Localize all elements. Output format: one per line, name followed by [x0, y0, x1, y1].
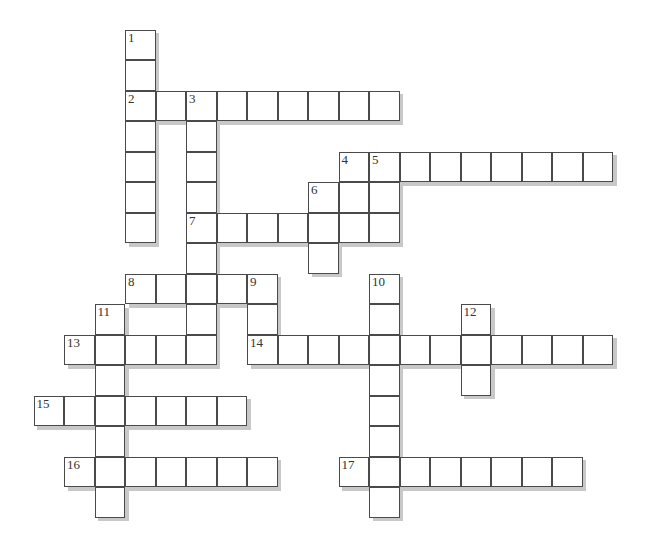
crossword-cell[interactable]	[522, 335, 553, 366]
crossword-cell[interactable]	[247, 213, 278, 244]
crossword-cell[interactable]	[95, 335, 126, 366]
crossword-cell[interactable]	[156, 396, 187, 427]
crossword-cell[interactable]	[156, 274, 187, 305]
crossword-cell[interactable]	[125, 60, 156, 91]
crossword-cell[interactable]	[186, 243, 217, 274]
crossword-cell[interactable]: 9	[247, 274, 278, 305]
crossword-cell[interactable]: 10	[369, 274, 400, 305]
crossword-cell[interactable]	[339, 213, 370, 244]
crossword-cell[interactable]	[125, 396, 156, 427]
crossword-cell[interactable]	[156, 91, 187, 122]
crossword-cell[interactable]	[278, 91, 309, 122]
crossword-cell[interactable]	[369, 396, 400, 427]
crossword-cell[interactable]	[217, 213, 248, 244]
crossword-cell[interactable]	[339, 182, 370, 213]
crossword-cell[interactable]	[369, 335, 400, 366]
crossword-cell[interactable]	[461, 457, 492, 488]
crossword-cell[interactable]	[491, 457, 522, 488]
crossword-cell[interactable]	[522, 457, 553, 488]
crossword-cell[interactable]	[217, 396, 248, 427]
crossword-cell[interactable]	[369, 213, 400, 244]
crossword-cell[interactable]	[186, 304, 217, 335]
crossword-cell[interactable]	[125, 121, 156, 152]
crossword-cell[interactable]	[339, 335, 370, 366]
crossword-cell[interactable]	[308, 335, 339, 366]
crossword-cell[interactable]	[430, 457, 461, 488]
crossword-cell[interactable]	[430, 152, 461, 183]
crossword-cell[interactable]: 17	[339, 457, 370, 488]
crossword-cell[interactable]	[125, 152, 156, 183]
crossword-cell[interactable]	[186, 457, 217, 488]
crossword-cell[interactable]	[247, 457, 278, 488]
crossword-cell[interactable]	[186, 121, 217, 152]
crossword-cell[interactable]	[64, 396, 95, 427]
crossword-cell[interactable]	[583, 152, 614, 183]
crossword-cell[interactable]	[552, 152, 583, 183]
crossword-cell[interactable]: 5	[369, 152, 400, 183]
crossword-cell[interactable]: 12	[461, 304, 492, 335]
crossword-cell[interactable]	[400, 152, 431, 183]
crossword-cell[interactable]	[369, 457, 400, 488]
crossword-cell[interactable]	[186, 396, 217, 427]
crossword-cell[interactable]	[156, 335, 187, 366]
crossword-cell[interactable]	[308, 213, 339, 244]
crossword-cell[interactable]: 13	[64, 335, 95, 366]
crossword-cell[interactable]	[95, 396, 126, 427]
crossword-cell[interactable]	[278, 213, 309, 244]
crossword-cell[interactable]	[125, 213, 156, 244]
crossword-cell[interactable]	[125, 335, 156, 366]
crossword-cell[interactable]: 16	[64, 457, 95, 488]
crossword-cell[interactable]	[491, 152, 522, 183]
crossword-cell[interactable]	[369, 487, 400, 518]
crossword-cell[interactable]	[247, 91, 278, 122]
crossword-cell[interactable]	[278, 335, 309, 366]
crossword-cell[interactable]	[308, 91, 339, 122]
crossword-cell[interactable]	[125, 182, 156, 213]
crossword-cell[interactable]: 4	[339, 152, 370, 183]
crossword-cell[interactable]	[461, 335, 492, 366]
crossword-cell[interactable]	[95, 457, 126, 488]
crossword-cell[interactable]	[461, 365, 492, 396]
clue-number: 9	[250, 275, 257, 289]
crossword-cell[interactable]	[217, 274, 248, 305]
crossword-cell[interactable]	[369, 365, 400, 396]
crossword-cell[interactable]	[247, 304, 278, 335]
crossword-cell[interactable]: 3	[186, 91, 217, 122]
crossword-cell[interactable]	[125, 457, 156, 488]
crossword-cell[interactable]: 6	[308, 182, 339, 213]
crossword-cell[interactable]	[186, 182, 217, 213]
crossword-cell[interactable]	[186, 152, 217, 183]
crossword-cell[interactable]	[95, 426, 126, 457]
crossword-cell[interactable]: 1	[125, 30, 156, 61]
crossword-cell[interactable]	[95, 365, 126, 396]
crossword-cell[interactable]: 11	[95, 304, 126, 335]
crossword-cell[interactable]	[369, 91, 400, 122]
crossword-cell[interactable]: 14	[247, 335, 278, 366]
crossword-cell[interactable]	[217, 91, 248, 122]
crossword-cell[interactable]	[308, 243, 339, 274]
crossword-cell[interactable]: 7	[186, 213, 217, 244]
crossword-cell[interactable]	[522, 152, 553, 183]
crossword-cell[interactable]	[339, 91, 370, 122]
crossword-cell[interactable]	[583, 335, 614, 366]
crossword-cell[interactable]	[156, 457, 187, 488]
crossword-cell[interactable]	[400, 335, 431, 366]
clue-number: 8	[128, 275, 135, 289]
crossword-cell[interactable]	[369, 182, 400, 213]
crossword-cell[interactable]	[186, 274, 217, 305]
crossword-cell[interactable]	[369, 426, 400, 457]
crossword-cell[interactable]	[400, 457, 431, 488]
crossword-cell[interactable]	[186, 335, 217, 366]
crossword-cell[interactable]: 2	[125, 91, 156, 122]
crossword-cell[interactable]: 8	[125, 274, 156, 305]
crossword-cell[interactable]	[217, 457, 248, 488]
crossword-cell[interactable]	[430, 335, 461, 366]
crossword-cell[interactable]	[552, 457, 583, 488]
crossword-cell[interactable]: 15	[34, 396, 65, 427]
crossword-cell[interactable]	[369, 304, 400, 335]
crossword-cell[interactable]	[461, 152, 492, 183]
crossword-cell[interactable]	[491, 335, 522, 366]
clue-number: 17	[342, 458, 355, 472]
crossword-cell[interactable]	[95, 487, 126, 518]
crossword-cell[interactable]	[552, 335, 583, 366]
